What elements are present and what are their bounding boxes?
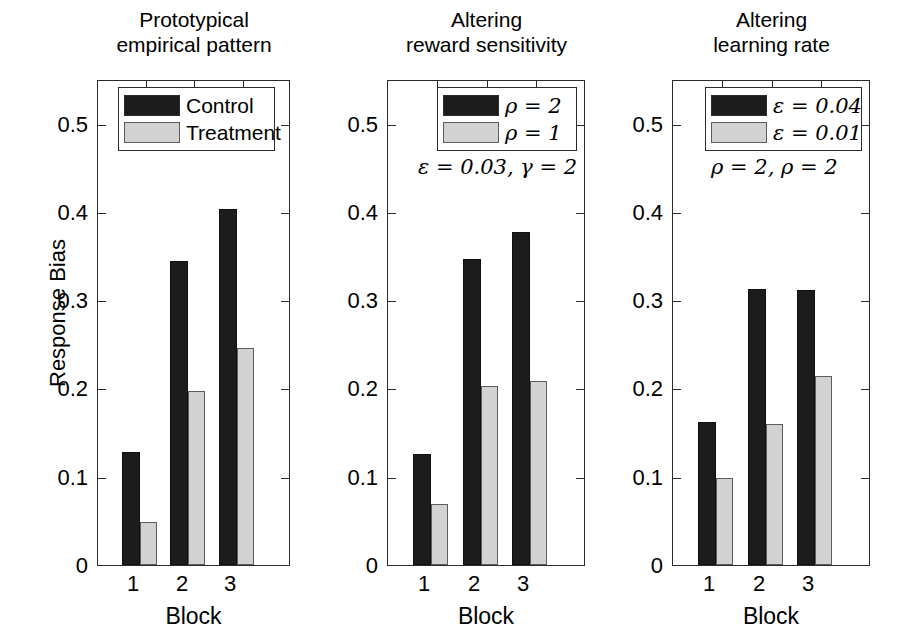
y-tick-label-0.2: 0.2 [57,376,88,402]
plot-area: 0.5 0.4 0.3 0.2 0.1 0 1 2 3 Block [672,80,870,566]
legend-row-series-2: ε = 0.01 [711,119,856,146]
x-axis-title: Block [673,603,869,630]
bar-treatment-block-2 [188,391,205,565]
legend-swatch-series-1 [711,95,767,116]
legend-swatch-series-1 [443,95,499,116]
y-tick-label-0.4: 0.4 [57,200,88,226]
bar-treatment-block-3 [237,348,254,565]
y-tick-right-0.3 [281,301,289,302]
legend-swatch-treatment [124,122,180,143]
y-tick-0.4 [98,213,106,214]
bar-eps001-block-1 [716,478,733,565]
y-tick-right-0.5 [861,125,869,126]
x-tick-label-1: 1 [703,571,715,597]
legend-label-control: Control [186,94,254,118]
y-tick-0.1 [388,478,396,479]
bar-rho2-block-2 [463,259,481,565]
x-tick-label-2: 2 [468,571,480,597]
panel-altering-learning-rate: Altering learning rate 0.5 0.4 0.3 0.2 0… [672,0,870,644]
legend-label-series-1: ρ = 2 [505,94,562,118]
y-tick-right-0.4 [861,213,869,214]
panel-annotation: ρ = 2, ρ = 2 [711,155,838,179]
bar-rho2-block-1 [413,454,431,565]
bar-rho1-block-1 [431,504,448,565]
y-tick-label-0.4: 0.4 [632,200,663,226]
panel-title-line-2: learning rate [644,33,899,58]
x-tick-label-2: 2 [176,571,188,597]
figure-canvas: Response Bias Prototypical empirical pat… [0,0,900,644]
panel-prototypical-empirical-pattern: Prototypical empirical pattern 0.5 0.4 0… [97,0,290,644]
panel-title-line-1: Prototypical [69,8,319,33]
y-tick-right-0.4 [281,213,289,214]
x-tick-label-3: 3 [517,571,529,597]
panel-title: Altering learning rate [644,8,899,58]
legend-label-treatment: Treatment [186,121,281,145]
y-tick-right-0.2 [281,389,289,390]
y-tick-label-0: 0 [366,553,378,579]
y-tick-label-0.5: 0.5 [57,112,88,138]
y-tick-right-0.1 [576,478,584,479]
y-tick-label-0.3: 0.3 [632,288,663,314]
y-tick-0.5 [388,125,396,126]
y-tick-right-0.1 [281,478,289,479]
y-tick-right-0.2 [861,389,869,390]
y-tick-label-0.2: 0.2 [347,376,378,402]
y-tick-label-0.5: 0.5 [347,112,378,138]
panel-altering-reward-sensitivity: Altering reward sensitivity 0.5 0.4 0.3 … [387,0,585,644]
y-tick-0.5 [98,125,106,126]
panel-title: Prototypical empirical pattern [69,8,319,58]
plot-area: 0.5 0.4 0.3 0.2 0.1 0 1 2 3 Block [97,80,290,566]
y-tick-0.3 [98,301,106,302]
y-tick-right-0.3 [576,301,584,302]
legend-row-treatment: Treatment [124,119,269,146]
panel-annotation: ε = 0.03, γ = 2 [418,155,577,179]
y-tick-0.3 [673,301,681,302]
bar-eps001-block-3 [815,376,832,565]
legend-row-series-1: ε = 0.04 [711,92,856,119]
legend: ρ = 2 ρ = 1 [437,87,577,151]
y-tick-0.4 [388,213,396,214]
legend-swatch-series-2 [711,122,767,143]
y-tick-right-0.1 [861,478,869,479]
bar-eps004-block-3 [797,290,815,565]
legend-row-control: Control [124,92,269,119]
bar-eps004-block-1 [698,422,716,565]
panel-title-line-1: Altering [644,8,899,33]
y-tick-0.1 [98,478,106,479]
y-tick-0.3 [388,301,396,302]
legend-label-series-2: ε = 0.01 [773,121,862,145]
bar-eps001-block-2 [766,424,783,565]
plot-area: 0.5 0.4 0.3 0.2 0.1 0 1 2 3 Block [387,80,585,566]
y-tick-label-0.1: 0.1 [57,465,88,491]
bar-rho1-block-2 [481,386,498,565]
y-tick-0.5 [673,125,681,126]
x-tick-label-3: 3 [802,571,814,597]
legend: ε = 0.04 ε = 0.01 [705,87,862,151]
y-tick-0.2 [388,389,396,390]
x-tick-label-2: 2 [753,571,765,597]
y-tick-label-0.3: 0.3 [57,288,88,314]
y-tick-0.2 [673,389,681,390]
bar-control-block-1 [122,452,140,565]
legend-label-series-2: ρ = 1 [505,121,562,145]
panel-title-line-2: reward sensitivity [359,33,614,58]
y-tick-label-0.1: 0.1 [632,465,663,491]
legend: Control Treatment [118,87,275,151]
bar-rho2-block-3 [512,232,530,565]
y-tick-right-0.3 [861,301,869,302]
x-tick-label-1: 1 [418,571,430,597]
bar-rho1-block-3 [530,381,547,565]
bar-control-block-3 [219,209,237,565]
y-tick-label-0.1: 0.1 [347,465,378,491]
y-tick-label-0.2: 0.2 [632,376,663,402]
y-tick-right-0.5 [576,125,584,126]
y-tick-right-0.2 [576,389,584,390]
y-tick-0.1 [673,478,681,479]
x-axis-title: Block [388,603,584,630]
legend-row-series-1: ρ = 2 [443,92,571,119]
panel-title: Altering reward sensitivity [359,8,614,58]
legend-row-series-2: ρ = 1 [443,119,571,146]
legend-swatch-control [124,95,180,116]
legend-label-series-1: ε = 0.04 [773,94,862,118]
y-tick-label-0: 0 [76,553,88,579]
